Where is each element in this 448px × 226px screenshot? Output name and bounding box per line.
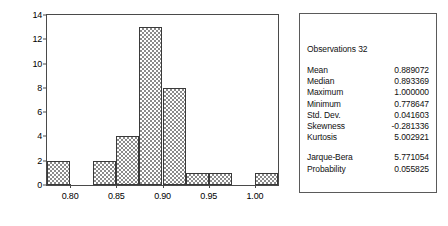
test-statistic-row: Jarque-Bera5.771054 (307, 152, 429, 163)
histogram-bar (47, 161, 70, 185)
stat-key: Skewness (307, 121, 345, 132)
statistic-row: Kurtosis5.002921 (307, 132, 429, 143)
statistic-row: Maximum1.000000 (307, 87, 429, 98)
histogram-bar (163, 88, 186, 185)
statistic-row: Median0.893369 (307, 76, 429, 87)
stat-value: 5.771054 (377, 152, 429, 163)
stat-value: 5.002921 (377, 132, 429, 143)
stat-key: Std. Dev. (307, 110, 340, 121)
statistic-row: Mean0.889072 (307, 65, 429, 76)
stat-value: 1.000000 (377, 87, 429, 98)
normality-test-rows: Jarque-Bera5.771054Probability0.055825 (307, 152, 429, 174)
statistic-row: Std. Dev.0.041603 (307, 110, 429, 121)
stat-value: 0.041603 (377, 110, 429, 121)
stat-key: Kurtosis (307, 132, 337, 143)
test-statistic-row: Probability0.055825 (307, 164, 429, 175)
stat-key: Mean (307, 65, 328, 76)
stat-key: Jarque-Bera (307, 152, 353, 163)
histogram-plot: 024681012140.800.850.900.951.00 (0, 0, 292, 226)
y-axis-tick-mark (43, 15, 47, 16)
stat-key: Minimum (307, 99, 341, 110)
statistic-row: Skewness-0.281336 (307, 121, 429, 132)
y-axis-tick-mark (43, 87, 47, 88)
stat-key: Maximum (307, 87, 343, 98)
histogram-statistics-figure: 024681012140.800.850.900.951.00 Observat… (0, 0, 448, 226)
stat-value: 0.055825 (377, 164, 429, 175)
histogram-bar (139, 27, 162, 185)
stat-value: 0.778647 (377, 99, 429, 110)
y-axis-tick-mark (43, 63, 47, 64)
observations-label: Observations 32 (307, 44, 429, 54)
x-axis-tick-mark (70, 184, 71, 188)
plot-frame: 024681012140.800.850.900.951.00 (46, 14, 279, 186)
statistics-panel: Observations 32 Mean0.889072Median0.8933… (299, 13, 437, 193)
stat-value: 0.889072 (377, 65, 429, 76)
histogram-bar (255, 173, 278, 185)
y-axis-tick-mark (43, 39, 47, 40)
stat-key: Probability (307, 164, 346, 175)
stat-value: 0.893369 (377, 76, 429, 87)
histogram-bar (93, 161, 116, 185)
stat-key: Median (307, 76, 334, 87)
statistic-row: Minimum0.778647 (307, 99, 429, 110)
histogram-bar (209, 173, 232, 185)
stat-value: -0.281336 (377, 121, 429, 132)
stats-spacer (307, 143, 429, 152)
y-axis-tick-mark (43, 136, 47, 137)
statistics-rows: Mean0.889072Median0.893369Maximum1.00000… (307, 65, 429, 143)
histogram-bar (186, 173, 209, 185)
histogram-bar (116, 136, 139, 185)
y-axis-tick-mark (43, 112, 47, 113)
